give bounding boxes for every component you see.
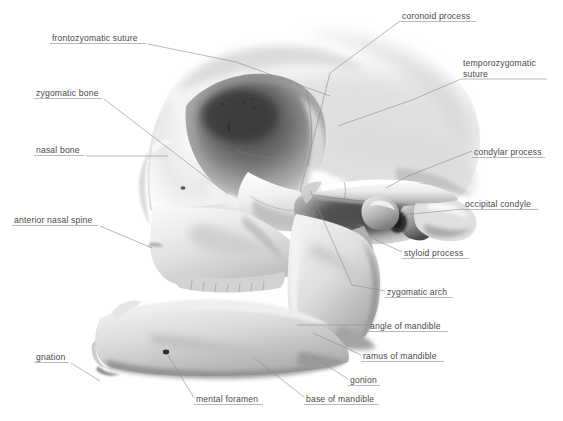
label-anterior-nasal-spine: anterior nasal spine — [14, 215, 92, 226]
anatomy-figure: frontozyomatic suturezygomatic bonenasal… — [0, 0, 563, 421]
label-angle-of-mandible: angle of mandible — [370, 321, 441, 332]
label-coronoid-process: coronoid process — [402, 11, 470, 22]
label-occipital-condyle: occipital condyle — [465, 199, 531, 210]
label-gonion: gonion — [350, 375, 377, 386]
label-gnation: gnation — [36, 352, 65, 363]
label-mental-foramen: mental foramen — [196, 394, 258, 405]
label-temporozygomatic-suture: temporozygomatic suture — [463, 58, 547, 79]
label-layer: frontozyomatic suturezygomatic bonenasal… — [0, 0, 563, 421]
label-nasal-bone: nasal bone — [36, 145, 80, 156]
label-zygomatic-bone: zygomatic bone — [36, 88, 99, 99]
label-zygomatic-arch: zygomatic arch — [387, 287, 447, 298]
label-ramus-of-mandible: ramus of mandible — [363, 351, 437, 362]
label-styloid-process: styloid process — [404, 248, 463, 259]
label-base-of-mandible: base of mandible — [306, 394, 374, 405]
label-frontozyomatic-suture: frontozyomatic suture — [52, 33, 138, 44]
label-condylar-process: condylar process — [474, 147, 542, 158]
